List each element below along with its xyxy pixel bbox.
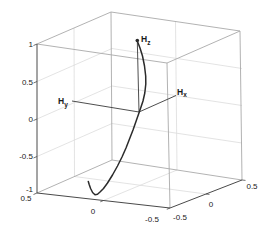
edge-vertical-front — [167, 63, 170, 208]
z-tick-m05 — [34, 157, 38, 159]
x-tick-label-m05: -0.5 — [145, 215, 159, 224]
grid-left-wall-y0 — [74, 28, 75, 177]
3d-plot-figure: 1 0.5 0 -0.5 -1 0.5 0 -0.5 -0.5 0 0.5 Hz… — [0, 0, 268, 239]
box-edges-axes — [37, 44, 242, 208]
z-tick-label-0: 0 — [29, 115, 34, 124]
z-tick-label-1: 1 — [29, 40, 34, 49]
y-tick-label-05: 0.5 — [246, 182, 258, 191]
hz-label: Hz — [141, 34, 151, 46]
3d-plot-canvas: 1 0.5 0 -0.5 -1 0.5 0 -0.5 -0.5 0 0.5 Hz… — [0, 0, 268, 239]
z-tick-label-05: 0.5 — [22, 78, 34, 87]
edge-vertical-back — [111, 12, 112, 160]
z-tick-1 — [34, 44, 38, 46]
z-tick-label-m05: -0.5 — [19, 152, 33, 161]
z-tick-0 — [34, 119, 38, 121]
hx-axis-line — [139, 96, 176, 113]
edge-top-left-front — [37, 44, 167, 63]
z-tick-m1 — [34, 193, 38, 195]
z-tick-05 — [34, 82, 38, 84]
x-tick-labels: 0.5 0 -0.5 — [20, 194, 159, 224]
trajectory-curve — [88, 41, 146, 195]
z-tick-label-m1: -1 — [26, 185, 34, 194]
y-tick-label-0: 0 — [209, 200, 214, 209]
hz-marker-dot — [136, 39, 140, 43]
y-tick-label-m05: -0.5 — [173, 213, 187, 222]
grid-floor-y0 — [75, 177, 207, 195]
hz-axis-line — [137, 41, 139, 112]
x-tick-label-05: 0.5 — [20, 194, 32, 203]
z-tick-labels: 1 0.5 0 -0.5 -1 — [19, 40, 33, 194]
hx-label: Hx — [177, 87, 187, 99]
edge-top-right-front — [167, 31, 240, 63]
hy-label: Hy — [58, 96, 68, 109]
x-tick-label-0: 0 — [91, 207, 96, 216]
hy-axis-line — [72, 101, 139, 112]
